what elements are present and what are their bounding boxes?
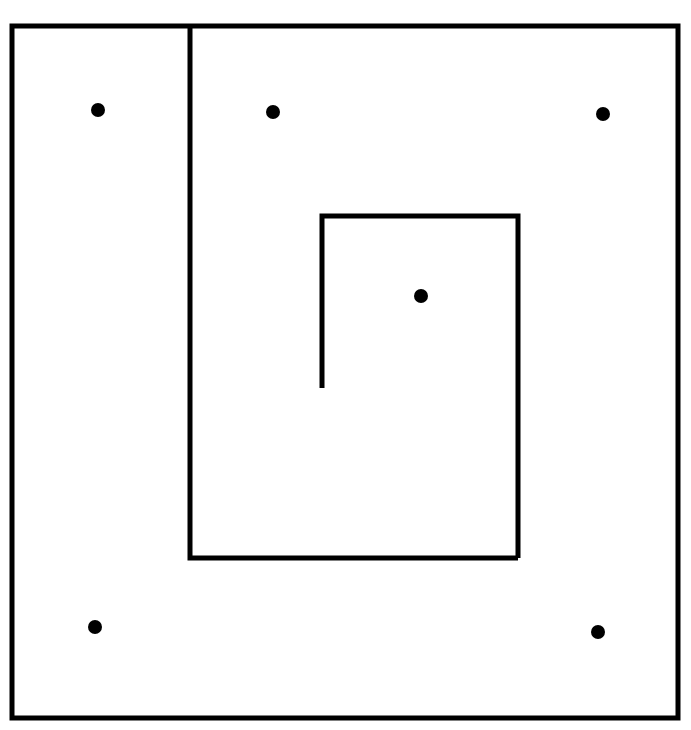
floor-plan-canvas (0, 0, 691, 730)
dot-bottom-right (591, 625, 605, 639)
dot-top-right (596, 107, 610, 121)
floor-plan-figure (0, 0, 691, 730)
dot-top-left (91, 103, 105, 117)
dot-bottom-left (88, 620, 102, 634)
dot-center (414, 289, 428, 303)
dot-top-middle (266, 105, 280, 119)
